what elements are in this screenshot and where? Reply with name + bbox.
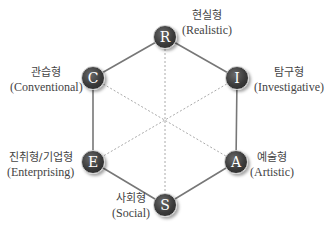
label-english: (Investigative) [254,80,324,95]
label-artistic: 예술형 (Artistic) [250,150,294,180]
label-korean: 예술형 [250,150,294,165]
label-english: (Social) [112,206,150,221]
label-korean: 탐구형 [254,65,324,80]
node-e: E [81,150,105,174]
label-korean: 사회형 [112,191,150,206]
node-a: A [224,150,248,174]
label-korean: 현실형 [182,8,232,23]
label-english: (Artistic) [250,165,294,180]
label-korean: 진취형/기업형 [7,150,74,165]
label-investigative: 탐구형 (Investigative) [254,65,324,95]
node-r: R [153,25,177,49]
label-conventional: 관습형 (Conventional) [10,65,83,95]
label-enterprising: 진취형/기업형 (Enterprising) [7,150,74,180]
label-social: 사회형 (Social) [112,191,150,221]
node-s: S [153,193,177,217]
label-korean: 관습형 [10,65,83,80]
riasec-hexagon-diagram: R I A S E C 현실형 (Realistic) 탐구형 (Investi… [0,0,329,235]
label-realistic: 현실형 (Realistic) [182,8,232,38]
node-c: C [81,66,105,90]
label-english: (Conventional) [10,80,83,95]
node-i: I [225,66,249,90]
label-english: (Enterprising) [7,165,74,180]
label-english: (Realistic) [182,23,232,38]
